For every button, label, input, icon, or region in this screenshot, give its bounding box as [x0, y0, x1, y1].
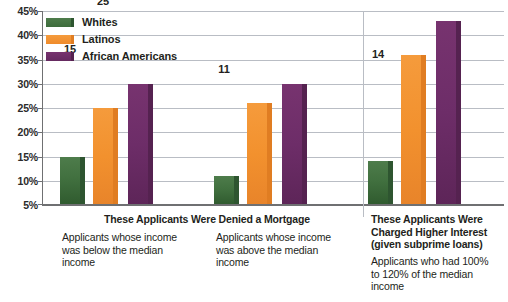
- bar-african-americans-group2[interactable]: [282, 84, 307, 205]
- bar-label-latinos-group2: 26: [237, 0, 277, 2]
- bar-side: [388, 161, 393, 205]
- y-tick-label-35: 35%: [0, 54, 38, 66]
- bar-face: [93, 108, 113, 205]
- bar-side: [148, 84, 153, 205]
- bar-side: [456, 21, 461, 205]
- group2-caption-line2: was above the median: [216, 244, 351, 257]
- group1-caption-line2: was below the median: [62, 244, 197, 257]
- chart-root: 45% 40% 35% 30% 25% 20% 15% 10% 5%: [0, 0, 508, 302]
- bar-side: [302, 84, 307, 205]
- legend-swatch-african-americans: [46, 52, 74, 61]
- bar-african-americans-group3[interactable]: [436, 21, 461, 205]
- group-title-denied-mortgage: These Applicants Were Denied a Mortgage: [67, 213, 347, 226]
- legend-swatch-whites: [46, 18, 74, 27]
- group3-caption-line2: to 120% of the median: [371, 268, 508, 281]
- y-tick-label-15: 15%: [0, 151, 38, 163]
- legend-item-latinos[interactable]: Latinos: [46, 31, 177, 47]
- y-tick-20: [38, 132, 43, 133]
- legend-item-whites[interactable]: Whites: [46, 14, 177, 30]
- y-tick-40: [38, 35, 43, 36]
- bar-label-latinos-group1: 25: [83, 0, 123, 7]
- bar-side: [267, 103, 272, 205]
- y-tick-label-40: 40%: [0, 29, 38, 41]
- caption-band: These Applicants Were Denied a Mortgage …: [0, 207, 508, 302]
- group1-caption-line1: Applicants whose income: [62, 231, 197, 244]
- group3-caption-line1: Applicants who had 100%: [371, 255, 508, 268]
- bar-face: [282, 84, 302, 205]
- group3-title-line3: (given subprime loans): [371, 238, 506, 251]
- legend-item-african-americans[interactable]: African Americans: [46, 48, 177, 64]
- group3-caption-line3: income: [371, 280, 508, 293]
- bar-side: [234, 176, 239, 205]
- y-tick-15: [38, 157, 43, 158]
- legend: Whites Latinos African Americans: [46, 14, 177, 65]
- bar-african-americans-group1[interactable]: [128, 84, 153, 205]
- y-tick-label-45: 45%: [0, 5, 38, 17]
- y-tick-label-10: 10%: [0, 175, 38, 187]
- legend-swatch-latinos: [46, 35, 74, 44]
- bar-face: [401, 55, 421, 205]
- bar-face: [247, 103, 267, 205]
- y-tick-30: [38, 84, 43, 85]
- legend-label-african-americans: African Americans: [82, 50, 177, 62]
- y-tick-25: [38, 108, 43, 109]
- y-axis: 45% 40% 35% 30% 25% 20% 15% 10% 5%: [0, 11, 38, 205]
- y-tick-label-30: 30%: [0, 78, 38, 90]
- bar-whites-group3[interactable]: [368, 161, 393, 205]
- bar-face: [214, 176, 234, 205]
- bar-label-whites-group3: 14: [358, 48, 398, 60]
- legend-label-latinos: Latinos: [82, 33, 120, 45]
- y-tick-label-25: 25%: [0, 102, 38, 114]
- bar-side: [80, 157, 85, 206]
- legend-label-whites: Whites: [82, 16, 117, 28]
- gridline-30: [42, 84, 504, 85]
- bar-latinos-group3[interactable]: [401, 55, 426, 205]
- bar-face: [60, 157, 80, 206]
- group3-title-line1: These Applicants Were: [371, 213, 506, 226]
- bar-whites-group1[interactable]: [60, 157, 85, 206]
- group3-title-line2: Charged Higher Interest: [371, 226, 506, 239]
- bar-latinos-group2[interactable]: [247, 103, 272, 205]
- x-axis-baseline: [42, 204, 504, 206]
- panel-divider: [363, 11, 364, 217]
- bar-side: [421, 55, 426, 205]
- y-tick-10: [38, 181, 43, 182]
- group1-caption-line3: income: [62, 256, 197, 269]
- bar-face: [368, 161, 388, 205]
- gridline-45: [42, 11, 504, 12]
- y-tick-45: [38, 11, 43, 12]
- bar-side: [113, 108, 118, 205]
- bar-label-whites-group2: 11: [204, 63, 244, 75]
- y-tick-label-20: 20%: [0, 126, 38, 138]
- group2-caption-line3: income: [216, 256, 351, 269]
- bar-face: [436, 21, 456, 205]
- bar-face: [128, 84, 148, 205]
- bar-latinos-group1[interactable]: [93, 108, 118, 205]
- bar-whites-group2[interactable]: [214, 176, 239, 205]
- group2-caption-line1: Applicants whose income: [216, 231, 351, 244]
- y-tick-35: [38, 60, 43, 61]
